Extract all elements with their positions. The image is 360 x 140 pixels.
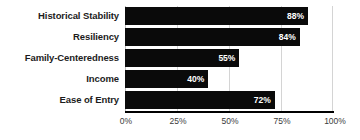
category-label: Ease of Entry [0,95,119,105]
bar-value-label: 84% [279,33,300,42]
bar-resiliency[interactable]: 84% [125,28,300,46]
category-label: Income [0,74,119,84]
bar-value-label: 72% [254,96,275,105]
x-tick-label: 25% [169,116,186,126]
bar-value-label: 55% [218,54,239,63]
x-tick-label: 0% [120,116,132,126]
x-tick-label: 50% [221,116,238,126]
category-label: Family-Centeredness [0,53,119,63]
bar-value-label: 88% [287,12,308,21]
bar-row: 88% [125,7,333,25]
bar-historical-stability[interactable]: 88% [125,7,308,25]
bar-row: 84% [125,28,333,46]
bar-income[interactable]: 40% [125,70,208,88]
bar-value-label: 40% [187,75,208,84]
x-axis-line [125,111,334,113]
x-axis-tick-labels: 0% 25% 50% 75% 100% [0,116,360,130]
category-label: Resiliency [0,32,119,42]
category-label: Historical Stability [0,11,119,21]
bar-family-centeredness[interactable]: 55% [125,49,239,67]
x-tick-label: 75% [273,116,290,126]
bar-row: 40% [125,70,333,88]
category-axis-labels: Historical Stability Resiliency Family-C… [0,6,119,111]
bar-row: 72% [125,91,333,109]
bar-ease-of-entry[interactable]: 72% [125,91,275,109]
bar-chart: Historical Stability Resiliency Family-C… [0,0,360,140]
x-tick-label: 100% [324,116,346,126]
plot-area: 88% 84% 55% 40% 72% [125,6,333,111]
bar-row: 55% [125,49,333,67]
